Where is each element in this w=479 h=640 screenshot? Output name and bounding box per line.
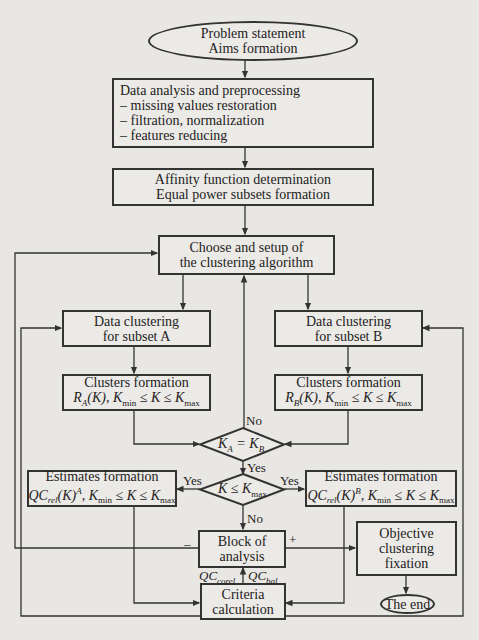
edge-label-no-top: No — [246, 414, 262, 427]
preprocessing-item: – filtration, normalization — [120, 113, 264, 128]
criteria-line1: Criteria — [222, 587, 265, 602]
clusters-a-formula: RA(K), Kmin ≤ K ≤ Kmax — [73, 390, 200, 411]
objective-line3: fixation — [385, 556, 429, 571]
objective-line2: clustering — [379, 541, 434, 556]
edge-label-plus: + — [289, 533, 296, 546]
edge-label-no-bottom: No — [247, 512, 263, 525]
clusters-b-title: Clusters formation — [296, 375, 401, 390]
start-line2: Aims formation — [208, 41, 297, 56]
choose-algorithm-node: Choose and setup of the clustering algor… — [158, 235, 335, 275]
edge-label-yes-left: Yes — [183, 474, 202, 487]
choose-line1: Choose and setup of — [190, 240, 304, 255]
end-node: The end — [380, 594, 435, 614]
estimates-a-title: Estimates formation — [45, 469, 158, 484]
edge-label-yes-mid: Yes — [247, 461, 266, 474]
estimates-b-title: Estimates formation — [324, 469, 437, 484]
criteria-line2: calculation — [212, 602, 273, 617]
clustering-a-line2: for subset A — [103, 329, 171, 344]
edge-label-qc-corel: QCcorel — [199, 569, 235, 588]
preprocessing-title: Data analysis and preprocessing — [120, 83, 300, 98]
objective-line1: Objective — [379, 526, 433, 541]
criteria-node: Criteria calculation — [200, 583, 286, 620]
clustering-a-node: Data clustering for subset A — [62, 310, 211, 347]
analysis-line1: Block of — [218, 534, 267, 549]
affinity-node: Affinity function determination Equal po… — [112, 168, 374, 206]
clusters-b-node: Clusters formation RB(K), Kmin ≤ K ≤ Kma… — [274, 374, 423, 411]
clustering-a-line1: Data clustering — [94, 314, 179, 329]
clustering-b-line1: Data clustering — [306, 314, 391, 329]
estimates-b-node: Estimates formation QCrel(K)B, Kmin ≤ K … — [305, 470, 457, 507]
edge-label-minus: – — [184, 537, 191, 550]
end-label: The end — [385, 597, 430, 612]
edge-label-qc-bal: QCbal — [248, 569, 278, 588]
clusters-a-title: Clusters formation — [84, 375, 189, 390]
clustering-b-node: Data clustering for subset B — [274, 310, 423, 347]
decision-k-le-kmax: K ≤ Kmax — [218, 482, 267, 501]
clusters-a-node: Clusters formation RA(K), Kmin ≤ K ≤ Kma… — [62, 374, 211, 411]
preprocessing-item: – missing values restoration — [120, 98, 277, 113]
edge-label-yes-right: Yes — [280, 474, 299, 487]
preprocessing-item: – features reducing — [120, 128, 227, 143]
estimates-b-formula: QCrel(K)B, Kmin ≤ K ≤ Kmax — [307, 484, 454, 508]
start-line1: Problem statement — [201, 26, 306, 41]
start-node: Problem statement Aims formation — [148, 21, 358, 61]
analysis-node: Block of analysis — [198, 530, 286, 568]
analysis-line2: analysis — [219, 549, 264, 564]
choose-line2: the clustering algorithm — [180, 255, 314, 270]
clusters-b-formula: RB(K), Kmin ≤ K ≤ Kmax — [285, 390, 412, 411]
decision-ka-eq-kb: KA = KB — [218, 437, 264, 456]
objective-node: Objective clustering fixation — [356, 521, 457, 576]
affinity-line1: Affinity function determination — [155, 172, 331, 187]
estimates-a-node: Estimates formation QCrel(K)A, Kmin ≤ K … — [27, 470, 177, 507]
estimates-a-formula: QCrel(K)A, Kmin ≤ K ≤ Kmax — [28, 484, 175, 508]
preprocessing-node: Data analysis and preprocessing – missin… — [112, 78, 374, 148]
clustering-b-line2: for subset B — [315, 329, 383, 344]
affinity-line2: Equal power subsets formation — [156, 187, 330, 202]
